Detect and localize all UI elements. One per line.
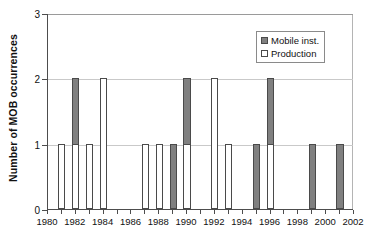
bar-segment-production-1981[interactable] xyxy=(58,144,65,209)
bar-group-1992[interactable] xyxy=(211,78,218,209)
x-tick-label-1992: 1992 xyxy=(203,216,224,227)
x-tick-mark-2001 xyxy=(339,210,340,214)
y-tick-label-0: 0 xyxy=(10,205,40,216)
bar-group-1987[interactable] xyxy=(142,144,149,209)
bar-segment-production-1993[interactable] xyxy=(225,144,232,209)
bar-group-1981[interactable] xyxy=(58,144,65,209)
x-tick-label-1986: 1986 xyxy=(120,216,141,227)
bar-group-1999[interactable] xyxy=(309,144,316,209)
bar-segment-production-1987[interactable] xyxy=(142,144,149,209)
mob-occurrences-bar-chart: Number of MOB occurrences 0123 198019821… xyxy=(0,0,365,248)
bar-group-1982[interactable] xyxy=(72,78,79,209)
x-tick-mark-1985 xyxy=(117,210,118,214)
x-axis-labels: 1980198219841986198819901992199419961998… xyxy=(47,216,353,232)
x-tick-label-1994: 1994 xyxy=(231,216,252,227)
x-tick-mark-1996 xyxy=(270,210,271,214)
x-tick-mark-2002 xyxy=(353,210,354,214)
x-tick-mark-1988 xyxy=(158,210,159,214)
bar-group-1983[interactable] xyxy=(86,144,93,209)
x-tick-label-2000: 2000 xyxy=(315,216,336,227)
bar-segment-mobile-inst-2001[interactable] xyxy=(336,144,343,209)
bar-segment-production-1983[interactable] xyxy=(86,144,93,209)
x-tick-mark-1986 xyxy=(130,210,131,214)
bar-segment-production-1992[interactable] xyxy=(211,78,218,209)
x-tick-mark-1991 xyxy=(200,210,201,214)
bar-group-1984[interactable] xyxy=(100,78,107,209)
y-tick-label-1: 1 xyxy=(10,139,40,150)
legend-item-mobile[interactable]: Mobile inst. xyxy=(261,35,319,46)
x-tick-mark-1987 xyxy=(144,210,145,214)
x-tick-mark-1997 xyxy=(283,210,284,214)
x-tick-label-1996: 1996 xyxy=(259,216,280,227)
x-tick-mark-1993 xyxy=(228,210,229,214)
x-tick-label-1984: 1984 xyxy=(92,216,113,227)
legend-label: Production xyxy=(271,48,316,59)
x-tick-mark-1995 xyxy=(256,210,257,214)
bar-segment-mobile-inst-1996[interactable] xyxy=(267,78,274,143)
y-tick-label-3: 3 xyxy=(10,9,40,20)
bar-group-2001[interactable] xyxy=(336,144,343,209)
x-tick-mark-1998 xyxy=(297,210,298,214)
x-tick-mark-1984 xyxy=(103,210,104,214)
x-tick-mark-1994 xyxy=(242,210,243,214)
bar-group-1989[interactable] xyxy=(170,144,177,209)
bar-segment-production-1988[interactable] xyxy=(156,144,163,209)
legend-item-production[interactable]: Production xyxy=(261,48,319,59)
x-tick-mark-1999 xyxy=(311,210,312,214)
bar-segment-production-1990[interactable] xyxy=(183,144,190,209)
y-tick-label-2: 2 xyxy=(10,74,40,85)
x-tick-mark-1980 xyxy=(47,210,48,214)
y-axis-ticks: 0123 xyxy=(0,0,47,248)
x-tick-mark-1992 xyxy=(214,210,215,214)
x-tick-label-2002: 2002 xyxy=(342,216,363,227)
x-tick-label-1998: 1998 xyxy=(287,216,308,227)
bar-segment-mobile-inst-1982[interactable] xyxy=(72,78,79,143)
chart-legend: Mobile inst.Production xyxy=(256,31,325,63)
x-tick-mark-2000 xyxy=(325,210,326,214)
bar-segment-production-1996[interactable] xyxy=(267,144,274,209)
bar-group-1990[interactable] xyxy=(183,78,190,209)
legend-label: Mobile inst. xyxy=(271,35,319,46)
x-tick-label-1990: 1990 xyxy=(176,216,197,227)
x-tick-mark-1983 xyxy=(89,210,90,214)
bar-segment-mobile-inst-1995[interactable] xyxy=(253,144,260,209)
x-tick-mark-1982 xyxy=(75,210,76,214)
bar-group-1995[interactable] xyxy=(253,144,260,209)
bar-segment-mobile-inst-1999[interactable] xyxy=(309,144,316,209)
x-tick-label-1980: 1980 xyxy=(36,216,57,227)
bar-group-1993[interactable] xyxy=(225,144,232,209)
x-tick-mark-1990 xyxy=(186,210,187,214)
bar-group-1996[interactable] xyxy=(267,78,274,209)
bar-segment-mobile-inst-1989[interactable] xyxy=(170,144,177,209)
legend-swatch-production-icon xyxy=(261,50,268,57)
legend-swatch-mobile-icon xyxy=(261,37,268,44)
x-tick-label-1988: 1988 xyxy=(148,216,169,227)
bar-segment-production-1984[interactable] xyxy=(100,78,107,209)
x-tick-mark-1989 xyxy=(172,210,173,214)
bar-segment-production-1982[interactable] xyxy=(72,144,79,209)
bar-segment-mobile-inst-1990[interactable] xyxy=(183,78,190,143)
x-tick-mark-1981 xyxy=(61,210,62,214)
bar-group-1988[interactable] xyxy=(156,144,163,209)
x-tick-label-1982: 1982 xyxy=(64,216,85,227)
